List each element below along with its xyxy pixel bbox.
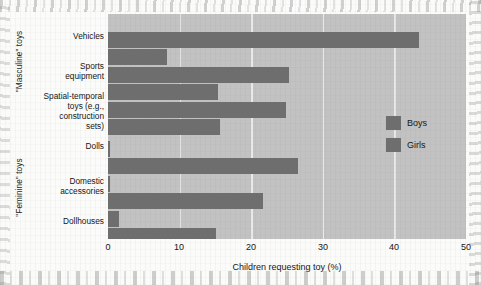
category-label-spatial-temporal-toys: Spatial-temporal toys (e.g., constructio… [16,91,104,131]
category-label-dollhouses: Dollhouses [16,216,104,226]
legend: Boys Girls [386,112,460,156]
legend-label-boys: Boys [407,118,427,128]
bar-girls-2 [108,119,220,135]
bar-girls-4 [108,193,263,209]
category-label-dolls: Dolls [16,141,104,151]
legend-swatch-girls [386,138,401,152]
x-axis-tick-labels: 0 10 20 30 40 50 [0,242,481,256]
x-axis-title: Children requesting toy (%) [108,262,466,272]
x-tick-40: 40 [379,242,409,252]
bar-chart-figure: "Masculine" toys "Feminine" toys Vehicle… [0,0,481,285]
bar-boys-0 [108,32,419,48]
bar-girls-1 [108,84,218,100]
category-label-sports-equipment: Sports equipment [16,61,104,81]
legend-item-boys: Boys [386,112,460,134]
x-tick-0: 0 [93,242,123,252]
bar-girls-0 [108,49,167,65]
x-tick-30: 30 [308,242,338,252]
bar-boys-2 [108,102,286,118]
legend-label-girls: Girls [407,140,426,150]
bar-boys-1 [108,67,289,83]
bar-boys-4 [108,176,110,192]
x-tick-20: 20 [236,242,266,252]
bar-girls-3 [108,158,298,174]
bar-boys-3 [108,141,110,157]
legend-item-girls: Girls [386,134,460,156]
category-label-domestic-accessories: Domestic accessories [16,176,104,196]
legend-swatch-boys [386,116,401,130]
bar-girls-5 [108,228,216,239]
x-tick-50: 50 [451,242,481,252]
category-label-vehicles: Vehicles [16,31,104,41]
bar-boys-5 [108,211,119,227]
x-tick-10: 10 [164,242,194,252]
